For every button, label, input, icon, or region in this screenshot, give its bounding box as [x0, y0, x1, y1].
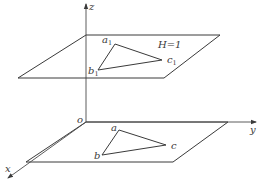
vertex-a-label: a — [111, 122, 117, 133]
projection-diagram: z a1 b1 c1 H=1 y x o a b c — [0, 0, 264, 187]
vertex-b1-label: b1 — [88, 65, 99, 78]
x-axis-label: x — [5, 163, 11, 174]
plane-height-label: H=1 — [157, 39, 181, 50]
diagram-canvas: z a1 b1 c1 H=1 y x o a b c — [0, 0, 264, 187]
vertex-c1-label: c1 — [167, 54, 177, 67]
vertex-a1-label: a1 — [102, 34, 112, 47]
origin-label: o — [77, 114, 83, 125]
z-axis-label: z — [88, 1, 95, 12]
vertex-c-label: c — [171, 140, 177, 151]
lower-plane — [26, 122, 228, 162]
y-axis-label: y — [249, 124, 256, 135]
lower-triangle — [102, 130, 166, 155]
x-axis — [8, 122, 86, 178]
upper-plane — [18, 35, 220, 78]
vertex-b-label: b — [94, 150, 100, 161]
upper-triangle — [98, 44, 162, 70]
